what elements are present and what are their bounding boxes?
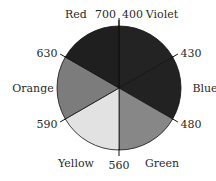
boundary-label-590: 590 [37, 118, 58, 131]
slice-label-violet: Violet [145, 8, 179, 21]
slice-label-blue: Blue [192, 82, 216, 95]
boundary-label-480: 480 [181, 118, 202, 131]
boundary-label-400: 400 [122, 8, 143, 21]
slice-label-yellow: Yellow [57, 157, 94, 170]
slice-label-green: Green [145, 157, 179, 170]
boundary-tick [60, 119, 66, 123]
slice-label-red: Red [65, 8, 87, 21]
boundary-tick [172, 54, 178, 58]
boundary-label-630: 630 [37, 47, 58, 60]
color-wheel-chart: VioletBlueGreenYellowOrangeRed 400700430… [0, 0, 216, 181]
boundary-label-430: 430 [181, 47, 202, 60]
slice-label-orange: Orange [12, 82, 53, 95]
boundary-tick [172, 119, 178, 123]
boundary-tick [60, 54, 66, 58]
boundary-label-560: 560 [109, 159, 130, 172]
boundary-label-700: 700 [95, 8, 116, 21]
